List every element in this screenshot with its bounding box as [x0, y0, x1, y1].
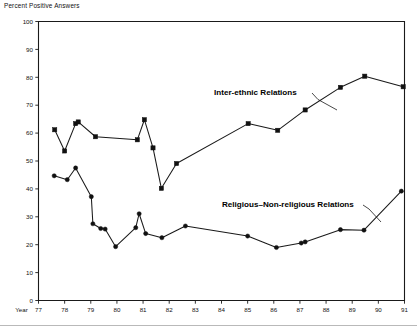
y-tick-label: 90 [26, 46, 33, 53]
data-point-marker [303, 108, 307, 112]
line-chart-plot: 0102030405060708090100 77787980818283848… [0, 0, 417, 330]
data-point-marker [363, 74, 367, 78]
data-point-marker [93, 135, 97, 139]
year-axis-label-text: Year [15, 306, 28, 313]
series-label-religious: Religious–Non-religious Relations [222, 200, 354, 209]
data-point-marker [151, 146, 155, 150]
data-point-marker [135, 138, 139, 142]
y-tick-label: 30 [26, 213, 33, 220]
x-tick-label: 89 [349, 306, 356, 313]
y-tick-label: 20 [26, 241, 33, 248]
data-point-marker [103, 227, 107, 231]
data-point-marker [144, 231, 148, 235]
x-tick-label: 83 [192, 306, 199, 313]
data-point-marker [299, 241, 303, 245]
leader-line-religious [363, 205, 381, 222]
chart-figure: Percent Positive Answers 010203040506070… [0, 0, 417, 330]
data-point-marker [63, 149, 67, 153]
page-bottom-rule [0, 325, 417, 326]
data-point-marker [274, 245, 278, 249]
data-point-marker [91, 222, 95, 226]
data-point-marker [53, 128, 57, 132]
x-tick-label: 78 [61, 306, 68, 313]
leader-line-inter-ethnic [312, 93, 337, 110]
data-point-marker [76, 120, 80, 124]
data-point-marker [114, 245, 118, 249]
y-tick-label: 80 [26, 74, 33, 81]
data-point-marker [99, 226, 103, 230]
x-tick-label: 77 [35, 306, 42, 313]
data-point-marker [246, 122, 250, 126]
data-point-marker [89, 195, 93, 199]
data-point-marker [246, 234, 250, 238]
y-tick-label: 70 [26, 101, 33, 108]
y-tick-label: 40 [26, 185, 33, 192]
series-annotations: Inter-ethnic RelationsReligious–Non-reli… [214, 88, 381, 223]
x-tick-label: 80 [113, 306, 120, 313]
plot-frame [39, 22, 405, 301]
x-tick-label: 88 [323, 306, 330, 313]
y-tick-label: 100 [23, 18, 34, 25]
data-point-marker [276, 128, 280, 132]
data-point-marker [338, 85, 342, 89]
y-tick-label: 50 [26, 157, 33, 164]
data-point-marker [183, 224, 187, 228]
data-series-group [52, 74, 405, 250]
y-tick-label: 10 [26, 269, 33, 276]
data-point-marker [338, 228, 342, 232]
x-tick-label: 81 [140, 306, 147, 313]
data-point-marker [65, 178, 69, 182]
x-tick-label: 90 [375, 306, 382, 313]
data-point-marker [401, 85, 405, 89]
x-tick-label: 91 [401, 306, 408, 313]
x-tick-label: 87 [296, 306, 303, 313]
x-axis-ticks: 777879808182838485868788899091 [35, 301, 408, 314]
year-axis-label: Year [15, 306, 28, 313]
y-axis-ticks: 0102030405060708090100 [23, 18, 39, 304]
x-tick-label: 85 [244, 306, 251, 313]
data-point-marker [134, 226, 138, 230]
x-tick-label: 82 [166, 306, 173, 313]
x-tick-label: 86 [270, 306, 277, 313]
data-point-marker [52, 174, 56, 178]
series-label-inter-ethnic: Inter-ethnic Relations [214, 88, 297, 97]
data-point-marker [160, 236, 164, 240]
x-tick-label: 84 [218, 306, 225, 313]
data-point-marker [303, 240, 307, 244]
data-point-marker [159, 186, 163, 190]
data-point-marker [362, 228, 366, 232]
data-point-marker [74, 166, 78, 170]
data-point-marker [137, 212, 141, 216]
y-tick-label: 60 [26, 129, 33, 136]
data-point-marker [142, 118, 146, 122]
x-tick-label: 79 [87, 306, 94, 313]
y-tick-label: 0 [30, 297, 34, 304]
data-point-marker [174, 161, 178, 165]
data-point-marker [399, 189, 403, 193]
